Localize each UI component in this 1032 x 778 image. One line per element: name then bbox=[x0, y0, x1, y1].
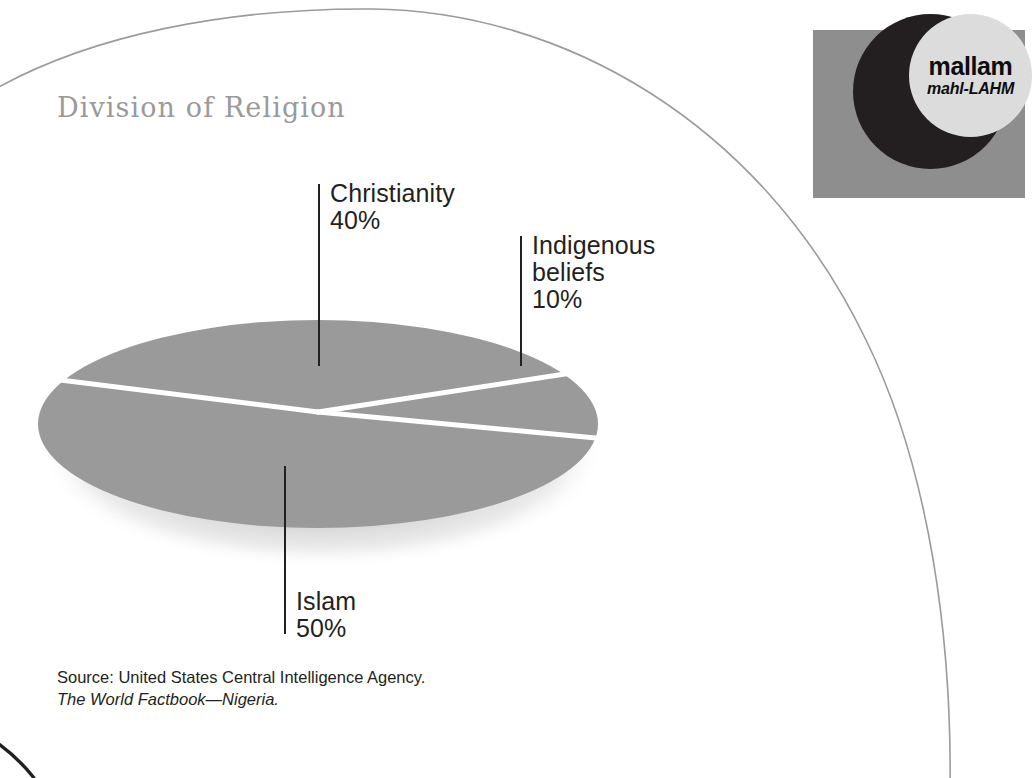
pie-chart-svg bbox=[18, 300, 638, 600]
leader-line-indigenous-beliefs bbox=[520, 236, 522, 366]
leader-line-islam bbox=[284, 466, 286, 634]
pie-chart bbox=[18, 300, 638, 600]
badge-ring: mallam mahl-LAHM bbox=[853, 14, 1008, 169]
leader-line-christianity bbox=[318, 184, 320, 366]
source-line-1: Source: United States Central Intelligen… bbox=[57, 666, 425, 688]
callout-christianity: Christianity 40% bbox=[330, 180, 455, 234]
callout-islam-text: Islam 50% bbox=[296, 588, 356, 642]
corner-mark-icon bbox=[0, 742, 34, 778]
page-title: Division of Religion bbox=[57, 92, 346, 123]
pronunciation-badge: mallam mahl-LAHM bbox=[813, 30, 1025, 198]
badge-disc: mallam mahl-LAHM bbox=[909, 14, 1032, 137]
badge-pronunciation: mahl-LAHM bbox=[927, 79, 1014, 98]
source-note: Source: United States Central Intelligen… bbox=[57, 666, 425, 710]
callout-indigenous-beliefs-text: Indigenous beliefs 10% bbox=[532, 232, 655, 313]
callout-islam: Islam 50% bbox=[296, 588, 356, 642]
callout-indigenous-beliefs: Indigenous beliefs 10% bbox=[532, 232, 655, 313]
source-line-2: The World Factbook—Nigeria. bbox=[57, 688, 425, 710]
callout-christianity-text: Christianity 40% bbox=[330, 180, 455, 234]
badge-word: mallam bbox=[929, 53, 1013, 79]
